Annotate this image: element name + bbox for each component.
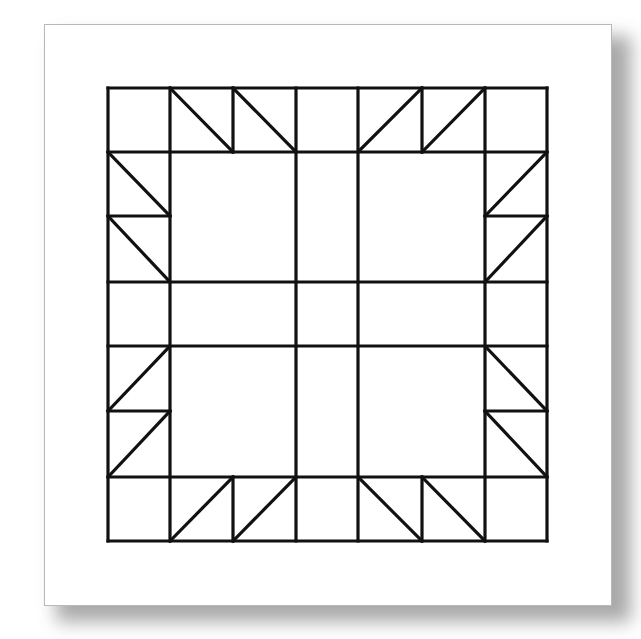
triangle-diagonal-line [170, 88, 233, 152]
triangle-diagonal-line [422, 477, 485, 541]
triangle-diagonal-line [108, 411, 170, 477]
sub-divider-lines [108, 88, 547, 541]
triangle-diagonal-line [358, 477, 422, 541]
triangle-diagonal-line [485, 152, 547, 216]
quilt-block-diagram [0, 0, 641, 639]
triangle-diagonal-line [233, 88, 296, 152]
triangle-diagonal-line [422, 88, 485, 152]
triangle-diagonal-line [108, 216, 170, 282]
triangle-diagonal-line [485, 411, 547, 477]
triangle-diagonal-line [170, 477, 233, 541]
triangle-diagonal-line [358, 88, 422, 152]
triangle-diagonals [108, 88, 547, 541]
triangle-diagonal-line [485, 346, 547, 411]
triangle-diagonal-line [233, 477, 296, 541]
triangle-diagonal-line [485, 216, 547, 282]
triangle-diagonal-line [108, 346, 170, 411]
triangle-diagonal-line [108, 152, 170, 216]
grid-lines [108, 88, 547, 541]
